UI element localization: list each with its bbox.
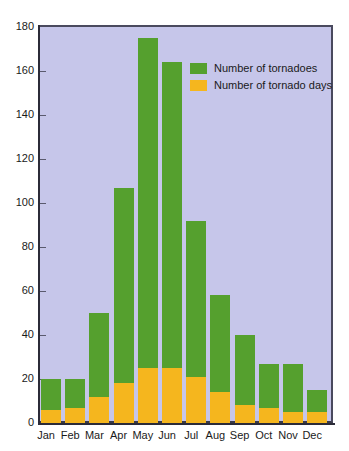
bar-group bbox=[186, 221, 206, 423]
bar-group bbox=[210, 295, 230, 423]
x-axis-labels: JanFebMarAprMayJunJulAugSepOctNovDec bbox=[40, 428, 331, 448]
y-axis-tick-label: 40 bbox=[4, 329, 34, 340]
bar-group bbox=[307, 390, 327, 423]
y-axis-tick-label: 180 bbox=[4, 21, 34, 32]
bar-segment-tornado-days bbox=[162, 368, 182, 423]
bar-segment-tornado-days bbox=[283, 412, 303, 423]
legend-item: Number of tornado days bbox=[190, 79, 332, 92]
y-axis-tick-label-wrap: 80 bbox=[0, 247, 34, 248]
y-axis-tick-label: 0 bbox=[4, 417, 34, 428]
chart-legend: Number of tornadoesNumber of tornado day… bbox=[190, 62, 332, 92]
y-axis-tick-label-wrap: 180 bbox=[0, 27, 34, 28]
y-axis-tick-label: 100 bbox=[4, 197, 34, 208]
legend-item: Number of tornadoes bbox=[190, 62, 332, 75]
bar-segment-tornado-days bbox=[138, 368, 158, 423]
bar-segment-tornado-days bbox=[89, 397, 109, 423]
bar-group bbox=[162, 62, 182, 423]
bar-group bbox=[235, 335, 255, 423]
y-axis-tick-label-wrap: 120 bbox=[0, 159, 34, 160]
legend-label: Number of tornado days bbox=[214, 80, 332, 91]
bar-segment-tornado-days bbox=[235, 405, 255, 423]
y-axis-tick-label-wrap: 60 bbox=[0, 291, 34, 292]
y-axis-tick-label-wrap: 20 bbox=[0, 379, 34, 380]
y-axis-tick-label: 20 bbox=[4, 373, 34, 384]
bar-group bbox=[41, 379, 61, 423]
y-axis-tick-label-wrap: 140 bbox=[0, 115, 34, 116]
y-axis-tick-label-wrap: 100 bbox=[0, 203, 34, 204]
tornado-bar-chart: 020406080100120140160180 JanFebMarAprMay… bbox=[0, 0, 349, 451]
bar-group bbox=[259, 364, 279, 423]
x-axis-line bbox=[38, 423, 335, 425]
bar-segment-tornado-days bbox=[307, 412, 327, 423]
bar-segment-tornado-days bbox=[210, 392, 230, 423]
y-axis-tick-label: 160 bbox=[4, 65, 34, 76]
bar-segment-tornado-days bbox=[65, 408, 85, 423]
y-axis-tick-label: 120 bbox=[4, 153, 34, 164]
bar-segment-tornado-days bbox=[259, 408, 279, 423]
y-axis-tick-label-wrap: 0 bbox=[0, 423, 34, 424]
bar-group bbox=[89, 313, 109, 423]
bar-group bbox=[65, 379, 85, 423]
bar-segment-tornado-days bbox=[186, 377, 206, 423]
legend-swatch bbox=[190, 80, 207, 91]
y-axis-tick-label-wrap: 160 bbox=[0, 71, 34, 72]
legend-label: Number of tornadoes bbox=[214, 63, 317, 74]
y-axis-tick-label: 60 bbox=[4, 285, 34, 296]
y-axis-tick-label: 140 bbox=[4, 109, 34, 120]
x-axis-tick-label: Dec bbox=[297, 428, 327, 442]
bar-segment-tornado-days bbox=[41, 410, 61, 423]
bar-segment-tornadoes bbox=[138, 38, 158, 423]
bar-segment-tornado-days bbox=[114, 383, 134, 423]
y-axis-tick-label-wrap: 40 bbox=[0, 335, 34, 336]
bar-group bbox=[283, 364, 303, 423]
y-axis-tick-label: 80 bbox=[4, 241, 34, 252]
bar-group bbox=[114, 188, 134, 423]
legend-swatch bbox=[190, 63, 207, 74]
bar-group bbox=[138, 38, 158, 423]
